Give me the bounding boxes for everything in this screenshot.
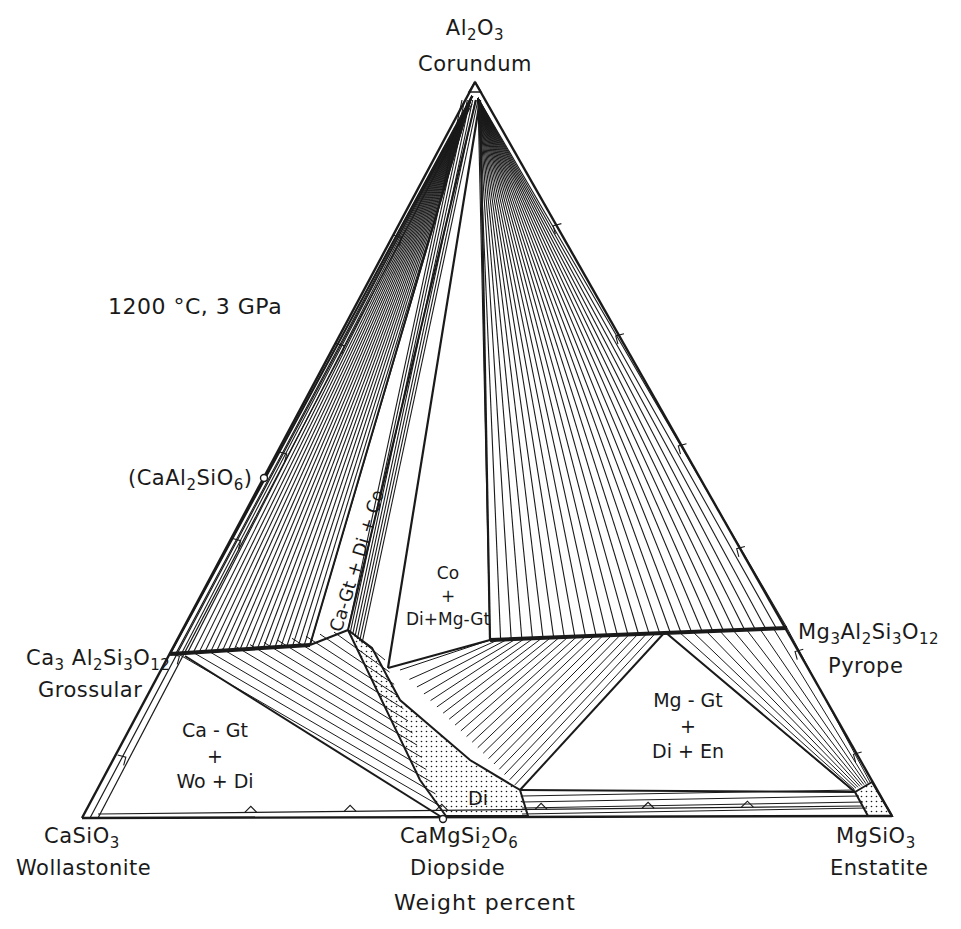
- tie-line: [478, 98, 776, 628]
- apex-top-formula: Al2O3: [425, 18, 525, 39]
- tie-line: [478, 98, 734, 630]
- field-mggt-di-en: Mg - Gt+Di + En: [628, 688, 748, 765]
- tie-line: [478, 98, 575, 637]
- grossular-formula: Ca3 Al2Si3O12: [26, 648, 170, 669]
- tie-line: [409, 640, 498, 680]
- enstatite-field: [855, 782, 892, 816]
- diopside-name: Diopside: [410, 858, 505, 879]
- tie-line: [478, 98, 755, 629]
- ca-tschermak-point: [261, 475, 268, 482]
- tick-mark: [344, 805, 356, 811]
- tie-line: [478, 98, 639, 634]
- tie-line: [489, 634, 613, 758]
- ca-tschermak-label: (CaAl2SiO6): [128, 468, 252, 489]
- tie-line: [461, 636, 569, 730]
- axis-caption: Weight percent: [394, 892, 576, 914]
- tie-line: [478, 98, 564, 637]
- field-co-di-mggt: Co+Di+Mg-Gt: [398, 562, 498, 631]
- apex-top-name: Corundum: [405, 54, 545, 75]
- tick-mark: [535, 803, 547, 809]
- wollastonite-name: Wollastonite: [16, 858, 151, 879]
- diopside-field: [348, 630, 528, 816]
- enstatite-name: Enstatite: [830, 858, 928, 879]
- wollastonite-formula: CaSiO3: [44, 826, 120, 847]
- field-ca-gt-wo-di: Ca - Gt+Wo + Di: [160, 718, 270, 795]
- diopside-point: [440, 816, 447, 823]
- tie-line: [478, 98, 681, 632]
- diopside-formula: CaMgSi2O6: [400, 826, 518, 847]
- edge-left-inner: [90, 96, 473, 818]
- enstatite-formula: MgSiO3: [836, 826, 916, 847]
- tie-line: [760, 629, 866, 784]
- edge-bottom: [82, 816, 892, 818]
- tie-line: [483, 635, 604, 753]
- boundary-di-en: [520, 790, 855, 792]
- edge-left: [82, 82, 475, 818]
- tie-line: [499, 634, 630, 770]
- pyrope-formula: Mg3Al2Si3O12: [798, 622, 939, 643]
- tie-line: [478, 98, 596, 636]
- tie-line: [522, 796, 859, 802]
- field-di: Di: [458, 786, 498, 812]
- tick-mark: [245, 806, 257, 812]
- grossular-name: Grossular: [38, 680, 142, 701]
- pyrope-join: [490, 628, 787, 640]
- condition-label: 1200 °C, 3 GPa: [108, 296, 282, 318]
- tie-line: [505, 633, 639, 774]
- pyrope-name: Pyrope: [828, 656, 903, 677]
- tie-line: [478, 98, 670, 633]
- tie-line: [478, 98, 628, 634]
- tie-line: [437, 638, 534, 707]
- tie-line: [746, 629, 864, 784]
- tie-line: [478, 98, 745, 630]
- tie-line: [478, 98, 702, 631]
